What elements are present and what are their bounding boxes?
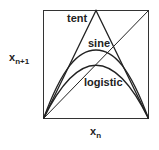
logistic-label: logistic bbox=[84, 77, 123, 88]
diagonal-line bbox=[44, 11, 149, 119]
x-axis-label-sub: n bbox=[96, 131, 101, 140]
x-axis-label: xn bbox=[90, 126, 101, 137]
logistic-curve bbox=[44, 65, 149, 118]
sine-label: sine bbox=[88, 38, 110, 49]
y-axis-label-sub: n+1 bbox=[15, 57, 29, 66]
tent-label: tent bbox=[67, 13, 87, 24]
y-axis-label: xn+1 bbox=[9, 52, 29, 63]
